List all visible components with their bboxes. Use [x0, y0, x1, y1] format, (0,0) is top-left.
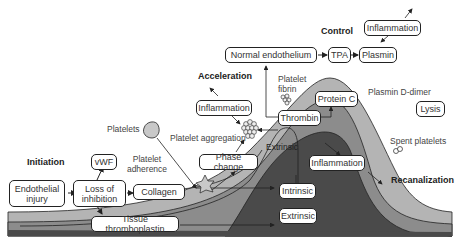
arrow-thrombin-to-endothelium [266, 66, 278, 117]
box-normal-endothelium[interactable]: Normal endothelium [225, 47, 317, 63]
phase-acceleration: Acceleration [198, 71, 252, 81]
platelet-fibrin-cluster-icon [281, 94, 291, 105]
diagram-canvas [0, 0, 459, 248]
box-inflammation-control[interactable]: Inflammation [364, 20, 421, 36]
box-thrombin[interactable]: Thrombin [278, 110, 321, 126]
box-plasmin[interactable]: Plasmin [359, 47, 397, 63]
box-inflammation-acceleration[interactable]: Inflammation [196, 100, 252, 116]
label-platelet-aggregation: Platelet aggregation [170, 133, 246, 143]
box-loss-of-inhibition[interactable]: Loss of inhibition [73, 180, 126, 207]
platelet-icon [143, 122, 159, 138]
box-tissue-thromboplastin[interactable]: Tissue thromboplastin [91, 216, 179, 232]
label-spent-platelets: Spent platelets [390, 136, 446, 146]
box-tpa[interactable]: TPA [328, 47, 351, 63]
arrow-inflammation-out-top [405, 9, 412, 18]
arrow-inflammation-to-aggregation [232, 116, 240, 124]
phase-control: Control [321, 26, 353, 36]
phase-recanalization: Recanalization [391, 175, 454, 185]
box-inflammation-center[interactable]: Inflammation [309, 155, 365, 171]
label-platelet-fibrin: Platelet fibrin [278, 74, 304, 94]
arrow-inflammation-to-plasmin [381, 36, 388, 42]
box-endothelial-injury[interactable]: Endothelial injury [9, 180, 65, 207]
label-platelets: Platelets [107, 124, 140, 134]
label-platelet-adherence: Platelet adherence [126, 154, 168, 174]
box-phase-change[interactable]: Phase change [199, 154, 258, 170]
label-extrinsic-band: Extrinsic [266, 142, 298, 152]
phase-initiation: Initiation [27, 157, 65, 167]
arrow-inflammation-out [210, 88, 218, 96]
box-vwf[interactable]: vWF [91, 154, 117, 170]
spent-platelets-icon [394, 147, 403, 154]
label-plasmin-d-dimer: Plasmin D-dimer [368, 87, 431, 97]
box-intrinsic[interactable]: Intrinsic [279, 183, 316, 199]
box-collagen[interactable]: Collagen [133, 184, 185, 200]
box-extrinsic[interactable]: Extrinsic [279, 208, 317, 224]
box-protein-c[interactable]: Protein C [315, 91, 358, 107]
box-lysis[interactable]: Lysis [416, 101, 445, 117]
